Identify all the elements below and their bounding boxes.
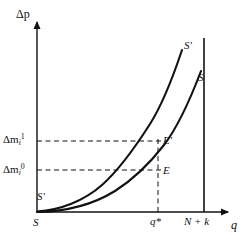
supply-curve-figure: Δp q Δmi1 Δmi0 q* N + k S′ S S′ S E′ E [0, 0, 245, 241]
y-tick-dm0-base: Δm [3, 163, 19, 175]
y-axis-label-text: Δp [16, 7, 30, 21]
curve-s [37, 71, 201, 212]
point-label-e: E [163, 165, 170, 176]
x-tick-label-qstar: q* [150, 216, 161, 227]
y-tick-dm0-superscript: 0 [21, 162, 25, 171]
curve-label-s-origin: S [33, 217, 39, 228]
point-label-e-prime: E′ [163, 135, 172, 146]
curve-label-s-top: S [198, 72, 204, 83]
figure-canvas [0, 0, 245, 241]
curve-label-s-prime-origin: S′ [37, 191, 45, 202]
x-axis-label-text: q [231, 218, 237, 232]
x-tick-label-n-plus-k: N + k [184, 216, 209, 227]
x-axis-label: q [231, 219, 237, 231]
y-tick-dm1-base: Δm [3, 133, 19, 145]
y-tick-label-dm1: Δmi1 [3, 133, 25, 147]
y-tick-label-dm0: Δmi0 [3, 163, 25, 177]
y-tick-dm1-superscript: 1 [21, 132, 25, 141]
curve-label-s-prime-top: S′ [184, 40, 192, 51]
curve-s-prime [37, 50, 182, 212]
y-axis-label: Δp [16, 8, 30, 20]
